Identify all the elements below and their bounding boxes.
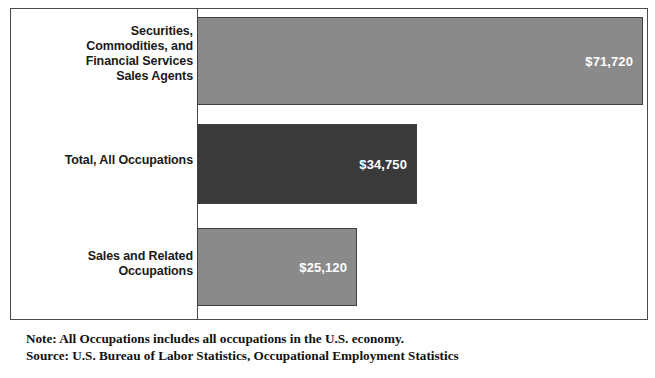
bar-category-label: Total, All Occupations — [15, 153, 193, 168]
bar-category-label: Sales and Related Occupations — [15, 249, 193, 279]
chart-footnotes: Note: All Occupations includes all occup… — [26, 330, 646, 364]
bar-category-label: Securities, Commodities, and Financial S… — [15, 24, 193, 84]
category-label-line: Commodities, and — [15, 39, 193, 54]
category-label-line: Occupations — [15, 264, 193, 279]
category-label-line: Total, All Occupations — [15, 153, 193, 168]
bar-value-label: $71,720 — [585, 54, 642, 69]
bar-total-all-occupations: $34,750 — [197, 124, 417, 204]
footnote-note: Note: All Occupations includes all occup… — [26, 330, 646, 347]
bar-value-label: $34,750 — [359, 157, 416, 172]
category-label-line: Sales and Related — [15, 249, 193, 264]
footnote-source: Source: U.S. Bureau of Labor Statistics,… — [26, 347, 646, 364]
bar-securities-commodities-financial-services-sales-agents: $71,720 — [197, 17, 643, 105]
bar-row: Securities, Commodities, and Financial S… — [11, 9, 647, 113]
bar-row: Sales and Related Occupations $25,120 — [11, 217, 647, 319]
bar-chart-figure: Securities, Commodities, and Financial S… — [0, 0, 655, 378]
category-label-line: Sales Agents — [15, 69, 193, 84]
category-label-line: Financial Services — [15, 54, 193, 69]
bar-row: Total, All Occupations $34,750 — [11, 113, 647, 217]
bar-sales-and-related-occupations: $25,120 — [197, 228, 357, 306]
bar-value-label: $25,120 — [299, 260, 356, 275]
chart-plot-frame: Securities, Commodities, and Financial S… — [10, 8, 648, 320]
category-label-line: Securities, — [15, 24, 193, 39]
